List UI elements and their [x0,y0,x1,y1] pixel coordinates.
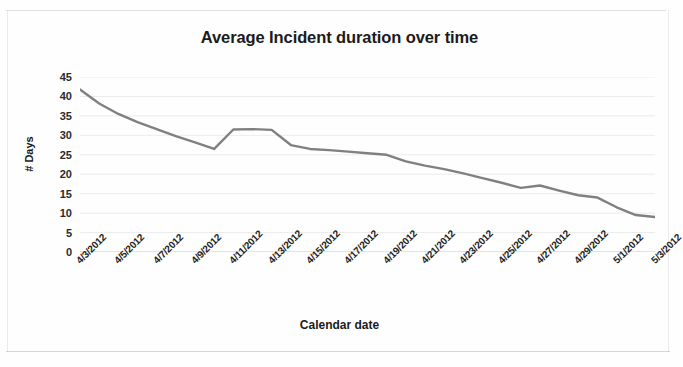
chart-line-svg [80,77,655,252]
y-axis-tick-label: 0 [46,247,72,258]
data-series-line [80,89,655,217]
y-axis-tick-label: 25 [46,150,72,161]
y-axis-title: # Days [23,119,35,189]
y-axis-tick-label: 15 [46,189,72,200]
y-axis-tick-label: 45 [46,72,72,83]
y-axis-tick-label: 20 [46,169,72,180]
chart-plot-area [80,77,655,252]
y-axis-tick-label: 10 [46,208,72,219]
y-axis-tick-label: 5 [46,228,72,239]
y-axis-tick-label: 35 [46,111,72,122]
chart-gridlines [80,77,655,252]
y-axis-tick-label: 30 [46,130,72,141]
y-axis-tick-label: 40 [46,91,72,102]
x-axis-title: Calendar date [0,318,679,332]
